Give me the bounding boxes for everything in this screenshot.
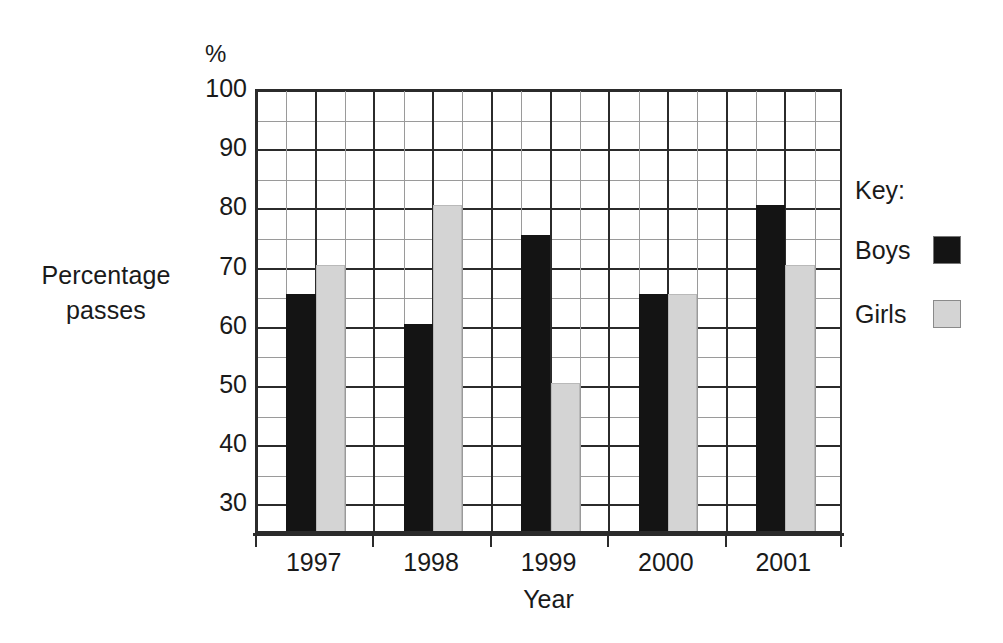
bar-boys-1997: [286, 294, 315, 531]
legend-items: BoysGirls: [855, 235, 1003, 329]
gridline-vertical: [697, 91, 698, 531]
y-tick-label-90: 90: [187, 135, 247, 160]
y-tick-label-40: 40: [187, 431, 247, 456]
y-axis-title-line-2: passes: [0, 293, 212, 328]
legend-swatch-girls: [933, 300, 961, 328]
x-axis-title: Year: [255, 584, 842, 614]
bar-girls-1997: [316, 265, 345, 531]
gridline-vertical: [580, 91, 581, 531]
gridline-vertical: [608, 91, 610, 531]
gridline-vertical: [373, 91, 375, 531]
legend-item-boys[interactable]: Boys: [855, 235, 1003, 265]
y-tick-label-50: 50: [187, 372, 247, 397]
x-tick-label-1999: 1999: [490, 545, 607, 579]
y-tick-label-80: 80: [187, 194, 247, 219]
legend-item-label: Girls: [855, 299, 933, 329]
legend: Key: BoysGirls: [855, 175, 1003, 363]
bar-boys-1998: [404, 324, 433, 531]
gridline-vertical: [462, 91, 463, 531]
gridline-vertical: [815, 91, 816, 531]
bar-boys-2001: [756, 205, 785, 531]
bar-girls-2001: [785, 265, 814, 531]
gridline-vertical: [726, 91, 728, 531]
y-tick-label-70: 70: [187, 254, 247, 279]
gridline-vertical: [345, 91, 346, 531]
bar-girls-1999: [551, 383, 580, 531]
gridline-vertical: [256, 91, 258, 531]
y-tick-label-30: 30: [187, 490, 247, 515]
y-axis-title: Percentage passes: [0, 258, 212, 328]
bar-girls-1998: [433, 205, 462, 531]
plot-area: [255, 89, 842, 533]
bar-girls-2000: [668, 294, 697, 531]
bar-boys-1999: [521, 235, 550, 531]
y-tick-label-100: 100: [187, 76, 247, 101]
y-axis-title-line-1: Percentage: [0, 258, 212, 293]
legend-item-label: Boys: [855, 235, 933, 265]
x-tick-label-2000: 2000: [607, 545, 724, 579]
y-axis-unit-label: %: [205, 40, 226, 68]
x-tick-label-1997: 1997: [255, 545, 372, 579]
legend-item-girls[interactable]: Girls: [855, 299, 1003, 329]
x-axis-tick-labels: 19971998199920002001: [255, 545, 842, 579]
y-axis-tick-labels: 10090807060504030: [183, 89, 247, 533]
y-tick-label-60: 60: [187, 313, 247, 338]
gridline-vertical: [491, 91, 493, 531]
legend-swatch-boys: [933, 236, 961, 264]
x-tick-label-2001: 2001: [725, 545, 842, 579]
bar-boys-2000: [639, 294, 668, 531]
x-tick-label-1998: 1998: [372, 545, 489, 579]
legend-title: Key:: [855, 175, 1003, 205]
